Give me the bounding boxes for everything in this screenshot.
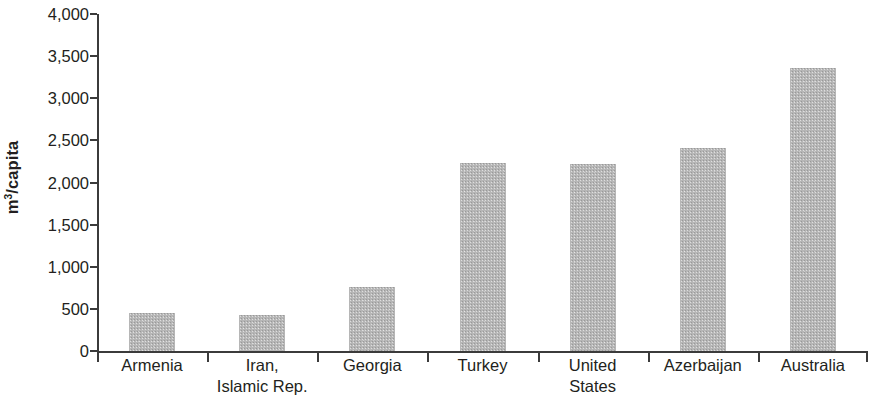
x-axis-tick-label-line: Turkey (427, 355, 537, 376)
x-axis-tick-label: Turkey (427, 355, 537, 376)
y-axis-tick-label: 3,500 (20, 48, 89, 65)
y-axis-tick-label: 1,500 (20, 216, 89, 233)
y-axis-tick-label: 500 (20, 301, 89, 318)
bar (680, 148, 726, 351)
y-axis-tick-mark (90, 224, 97, 226)
y-axis-tick-mark (90, 13, 97, 15)
y-axis-tick-label: 3,000 (20, 90, 89, 107)
x-axis-line (97, 351, 868, 353)
bars-layer (97, 14, 868, 351)
bar (349, 287, 395, 351)
y-axis-tick-label: 4,000 (20, 6, 89, 23)
x-axis-tick-label: Iran,Islamic Rep. (207, 355, 317, 397)
y-axis-tick-mark (90, 350, 97, 352)
y-axis-tick-mark (90, 55, 97, 57)
bar (239, 315, 285, 351)
x-axis-tick-label: Azerbaijan (648, 355, 758, 376)
y-axis-tick-label: 2,000 (20, 174, 89, 191)
x-axis-tick-labels: ArmeniaIran,Islamic Rep.GeorgiaTurkeyUni… (97, 355, 868, 417)
bar (570, 164, 616, 351)
x-axis-tick-label: UnitedStates (538, 355, 648, 397)
y-axis-tick-labels: 05001,0001,5002,0002,5003,0003,5004,000 (20, 0, 89, 365)
x-axis-tick-label: Armenia (97, 355, 207, 376)
y-axis-tick-label: 1,000 (20, 259, 89, 276)
bar-chart-figure: m3/capita 05001,0001,5002,0002,5003,0003… (0, 0, 875, 417)
x-axis-tick-label-line: Azerbaijan (648, 355, 758, 376)
y-axis-tick-mark (90, 139, 97, 141)
bar (460, 163, 506, 351)
y-axis-tick-mark (90, 308, 97, 310)
x-axis-tick-label-line: Iran, (207, 355, 317, 376)
x-axis-tick-label-line: Armenia (97, 355, 207, 376)
x-axis-tick-label-line: Islamic Rep. (207, 376, 317, 397)
bar (129, 313, 175, 351)
x-axis-tick-label-line: Australia (758, 355, 868, 376)
bar (790, 68, 836, 351)
y-axis-tick-mark (90, 97, 97, 99)
x-axis-tick-label: Australia (758, 355, 868, 376)
y-axis-tick-label: 2,500 (20, 132, 89, 149)
x-axis-tick-label-line: Georgia (317, 355, 427, 376)
x-axis-tick-label-line: States (538, 376, 648, 397)
y-axis-tick-mark (90, 182, 97, 184)
y-axis-tick-mark (90, 266, 97, 268)
x-axis-tick-label: Georgia (317, 355, 427, 376)
y-axis-tick-label: 0 (20, 343, 89, 360)
x-axis-tick-label-line: United (538, 355, 648, 376)
plot-area (97, 14, 868, 351)
